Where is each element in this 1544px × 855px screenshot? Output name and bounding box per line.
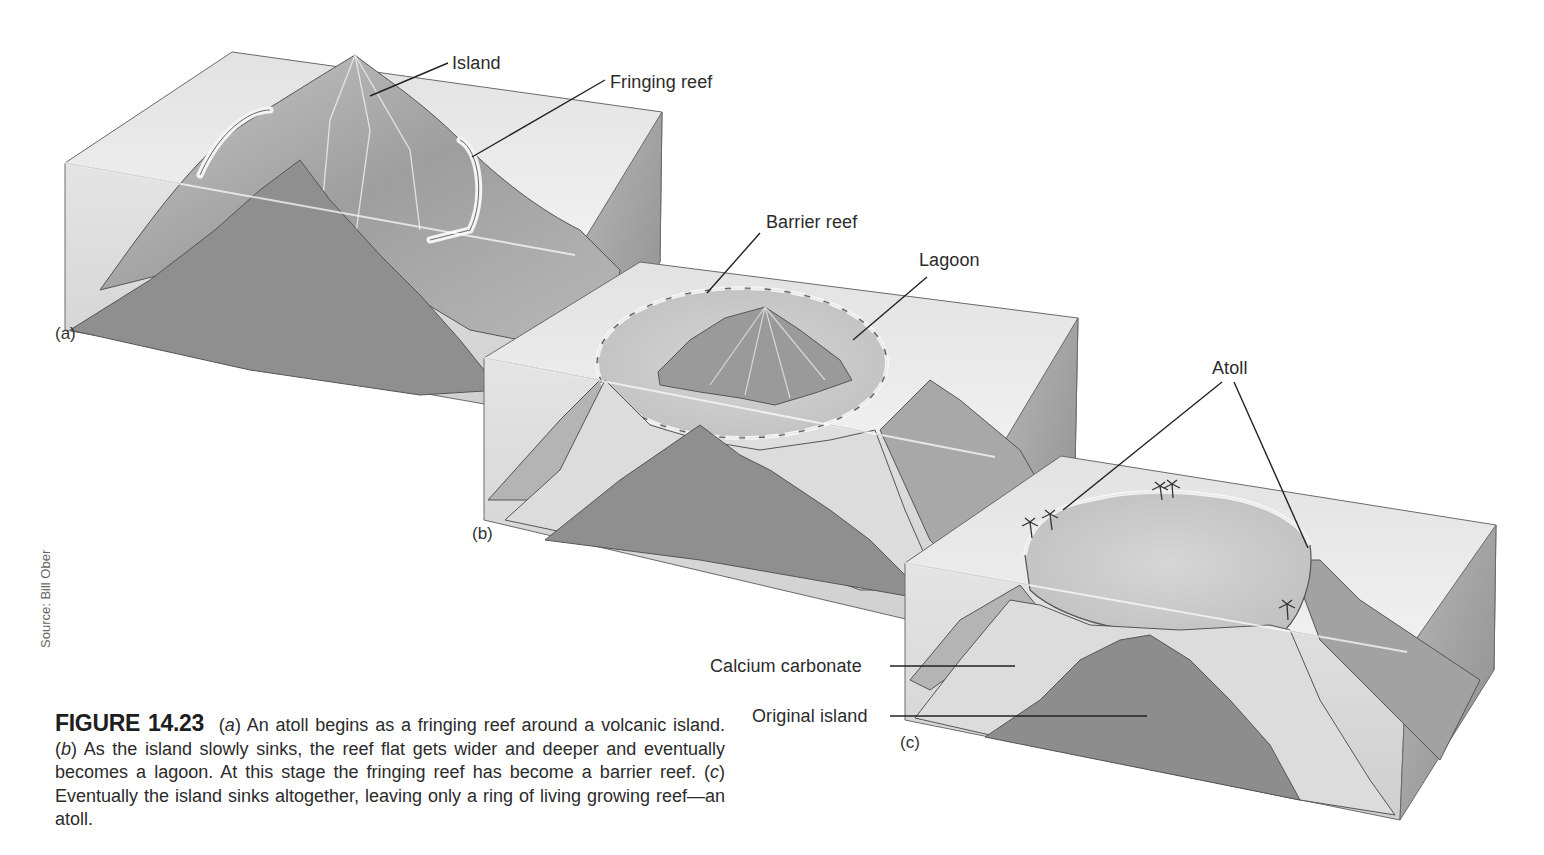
figure-caption: FIGURE 14.23 (a) An atoll begins as a fr… [55,712,725,832]
panel-tag-c: (c) [900,733,920,753]
label-barrier-reef: Barrier reef [766,212,857,233]
label-atoll: Atoll [1212,358,1248,379]
caption-letter-a: a [225,715,235,735]
block-c [905,456,1496,820]
label-lagoon: Lagoon [919,250,980,271]
caption-text-c: Eventually the island sinks altogether, … [55,786,725,830]
figure-number: FIGURE 14.23 [55,710,204,736]
panel-tag-a: (a) [55,324,76,344]
caption-letter-c: c [710,762,719,782]
caption-text-a: An atoll begins as a fringing reef aroun… [241,715,725,735]
label-calcium-carbonate: Calcium carbonate [710,656,862,677]
panel-tag-b: (b) [472,524,493,544]
source-credit: Source: Bill Ober [38,550,53,648]
label-fringing-reef: Fringing reef [610,72,712,93]
caption-text-b: As the island slowly sinks, the reef fla… [55,739,725,783]
label-island: Island [452,53,501,74]
caption-letter-b: b [61,739,71,759]
label-original-island: Original island [752,706,868,727]
